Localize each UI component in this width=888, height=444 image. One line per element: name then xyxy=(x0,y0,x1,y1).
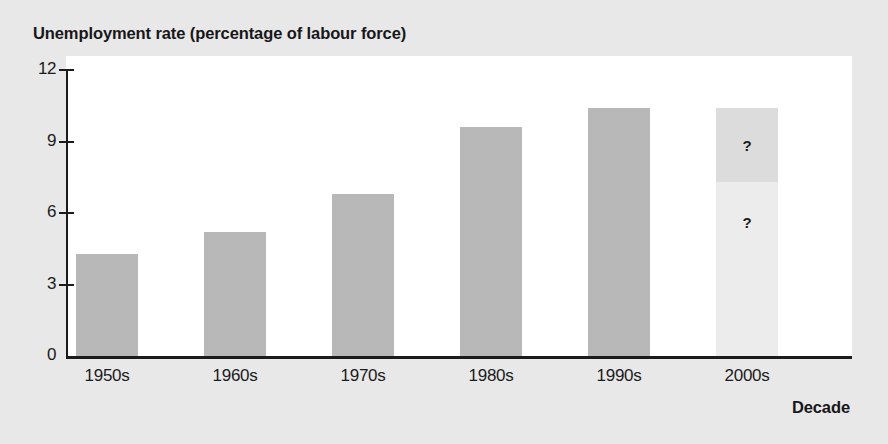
y-tick-label: 9 xyxy=(20,131,56,151)
x-tick-label-1980s: 1980s xyxy=(446,366,536,386)
y-tick-label: 12 xyxy=(20,59,56,79)
bar-2000s: ?? xyxy=(716,108,778,356)
x-tick-label-1960s: 1960s xyxy=(190,366,280,386)
projection-question-mark: ? xyxy=(716,214,778,231)
bar-1950s xyxy=(76,254,138,356)
x-tick-label-1990s: 1990s xyxy=(574,366,664,386)
x-axis-title: Decade xyxy=(792,398,850,417)
y-tick-label: 6 xyxy=(20,202,56,222)
bar-1990s xyxy=(588,108,650,356)
x-tick-label-1970s: 1970s xyxy=(318,366,408,386)
chart-title: Unemployment rate (percentage of labour … xyxy=(33,24,406,43)
y-tick-label: 3 xyxy=(20,274,56,294)
bar-1980s xyxy=(460,127,522,356)
y-tick-label: 0 xyxy=(20,345,56,365)
bars-layer: ?? xyxy=(66,56,852,357)
x-tick-label-1950s: 1950s xyxy=(62,366,152,386)
bar-segment-lower xyxy=(716,182,778,356)
projection-question-mark: ? xyxy=(716,137,778,154)
x-tick-label-2000s: 2000s xyxy=(702,366,792,386)
bar-1960s xyxy=(204,232,266,356)
bar-1970s xyxy=(332,194,394,356)
chart-figure: Unemployment rate (percentage of labour … xyxy=(0,0,888,444)
